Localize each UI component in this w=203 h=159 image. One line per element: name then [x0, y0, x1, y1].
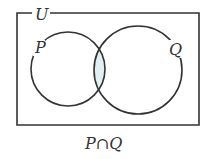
universe-rectangle: [17, 13, 199, 125]
caption: P∩Q: [84, 134, 122, 153]
universe-label: U: [35, 5, 49, 24]
set-p-label: P: [34, 38, 46, 57]
set-q-label: Q: [169, 40, 182, 59]
venn-diagram: U P Q P∩Q: [0, 0, 203, 159]
